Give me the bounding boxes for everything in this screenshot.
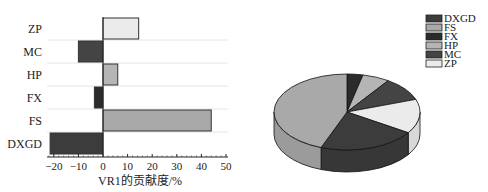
legend: DXGDFSFXHPMCZP [426, 12, 476, 69]
category-label-mc: MC [23, 45, 42, 59]
tick-label: −10 [70, 160, 88, 172]
tick-label: −20 [45, 160, 63, 172]
pie-slices [274, 74, 420, 150]
legend-swatch-dxgd [426, 15, 442, 22]
legend-swatch-hp [426, 42, 442, 49]
bar-fs [103, 110, 211, 131]
bar-hp [103, 64, 118, 85]
x-axis-label: VR1的贡献度/% [98, 173, 182, 188]
category-label-fx: FX [27, 91, 43, 105]
tick-label: 30 [171, 160, 183, 172]
legend-swatch-fx [426, 33, 442, 40]
legend-swatch-mc [426, 51, 442, 58]
category-label-zp: ZP [28, 22, 42, 36]
legend-swatch-fs [426, 24, 442, 31]
category-label-hp: HP [27, 68, 43, 82]
tick-label: 40 [196, 160, 208, 172]
tick-label: 0 [100, 160, 106, 172]
bar-zp [103, 18, 139, 39]
legend-swatch-zp [426, 60, 442, 67]
bar-chart: ZPMCHPFXFSDXGD −20−1001020304050 VR1的贡献度… [7, 17, 232, 188]
bar-fx [94, 87, 103, 108]
category-labels: ZPMCHPFXFSDXGD [7, 22, 42, 151]
tick-label: 50 [221, 160, 233, 172]
bar-dxgd [50, 133, 103, 154]
figure: ZPMCHPFXFSDXGD −20−1001020304050 VR1的贡献度… [0, 0, 488, 192]
legend-label-zp: ZP [444, 57, 457, 69]
category-label-fs: FS [29, 114, 42, 128]
tick-label: 20 [147, 160, 159, 172]
bar-mc [78, 41, 103, 62]
tick-label: 10 [122, 160, 134, 172]
category-label-dxgd: DXGD [7, 137, 42, 151]
pie-chart-3d [274, 74, 420, 172]
